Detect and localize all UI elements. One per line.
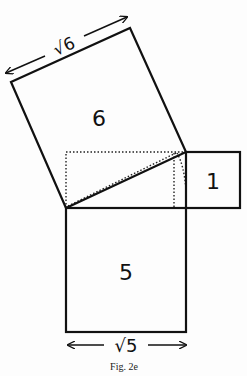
area-label-1: 1	[206, 169, 220, 194]
figure-caption: Fig. 2e	[110, 361, 138, 372]
side-label-sqrt5: √5	[115, 335, 138, 356]
pythagoras-diagram: √6 6 1 5 √5 Fig. 2e	[0, 0, 247, 376]
area-label-6: 6	[92, 106, 106, 131]
area-label-5: 5	[119, 260, 133, 285]
side-label-sqrt6: √6	[50, 32, 78, 59]
